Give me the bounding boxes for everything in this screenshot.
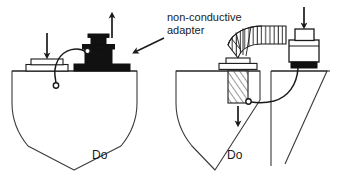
left-vessel-outline [12, 71, 137, 170]
cylindrical-nozzle-fitting [289, 29, 319, 62]
left-vessel-assembly: Do [12, 15, 137, 170]
dark-stepped-adapter-fitting [74, 34, 130, 71]
right-vessel-side-wall [271, 71, 327, 166]
adapter-callout: non-conductive adapter [135, 11, 242, 52]
wire-terminal-ring-upper [85, 48, 90, 53]
flat-flange-plate [26, 59, 68, 71]
dark-gasket [291, 62, 317, 68]
diagram-canvas: Do [0, 0, 338, 180]
caption-left: Do [92, 148, 108, 162]
corrugated-hose [228, 26, 286, 58]
adapter-label-line2: adapter [167, 24, 205, 36]
technical-diagram: Do [0, 0, 338, 180]
wire-terminal-ring-lower [53, 83, 58, 88]
wire-terminal-ring [246, 99, 251, 104]
adapter-callout-arrow [135, 38, 164, 52]
threaded-screw-shaft [228, 71, 248, 103]
caption-right: Do [227, 148, 243, 162]
adapter-label-line1: non-conductive [167, 11, 242, 23]
hose-flange-collar [219, 58, 257, 69]
